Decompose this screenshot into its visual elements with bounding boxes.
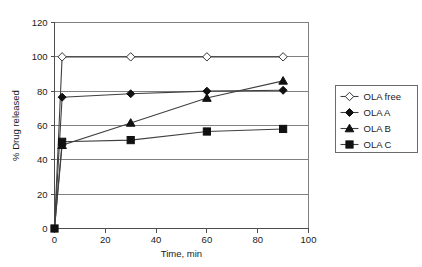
data-point xyxy=(127,136,134,143)
data-point xyxy=(58,53,66,61)
y-tick-label: 100 xyxy=(32,51,48,62)
y-tick-label: 60 xyxy=(37,120,48,131)
x-tick-label: 100 xyxy=(301,234,317,245)
legend-marker-square-filled xyxy=(346,141,353,148)
data-point xyxy=(279,53,287,61)
y-tick-label: 40 xyxy=(37,154,48,165)
legend-label: OLA free xyxy=(364,91,402,102)
y-axis: 020406080100120 xyxy=(32,17,55,234)
x-tick-label: 60 xyxy=(202,234,213,245)
chart-canvas: 020406080100120020406080100Time, min% Dr… xyxy=(0,0,422,267)
legend: OLA freeOLA AOLA BOLA C xyxy=(336,86,418,153)
data-point xyxy=(203,128,210,135)
data-point xyxy=(203,53,211,61)
legend-label: OLA C xyxy=(364,139,392,150)
legend-item-ola-free[interactable]: OLA free xyxy=(341,91,402,102)
legend-label: OLA B xyxy=(364,123,391,134)
x-axis: 020406080100 xyxy=(52,229,317,245)
data-point-origin xyxy=(51,225,58,232)
series-layer xyxy=(51,53,288,232)
x-tick-label: 40 xyxy=(151,234,162,245)
x-tick-label: 0 xyxy=(52,234,57,245)
series-ola-c xyxy=(55,129,284,229)
data-point xyxy=(59,138,66,145)
origin-marker-group xyxy=(51,225,58,232)
legend-item-ola-c[interactable]: OLA C xyxy=(341,139,392,150)
chart-figure: 020406080100120020406080100Time, min% Dr… xyxy=(0,0,422,267)
data-point xyxy=(58,93,66,101)
data-point xyxy=(280,125,287,132)
x-axis-title: Time, min xyxy=(161,248,202,259)
y-tick-label: 0 xyxy=(42,223,47,234)
legend-label: OLA A xyxy=(364,107,392,118)
series-ola-free xyxy=(55,57,284,229)
x-tick-label: 80 xyxy=(252,234,263,245)
data-point xyxy=(279,77,288,85)
series-line xyxy=(55,57,284,229)
gridlines xyxy=(55,23,309,229)
markers-ola-a xyxy=(58,86,287,101)
y-axis-title: % Drug released xyxy=(10,90,21,161)
series-line xyxy=(55,81,284,229)
data-point xyxy=(279,86,287,94)
y-tick-label: 120 xyxy=(32,17,48,28)
y-tick-label: 20 xyxy=(37,189,48,200)
series-ola-b xyxy=(55,81,284,229)
x-tick-label: 20 xyxy=(100,234,111,245)
y-tick-label: 80 xyxy=(37,86,48,97)
series-line xyxy=(55,129,284,229)
data-point xyxy=(127,53,135,61)
